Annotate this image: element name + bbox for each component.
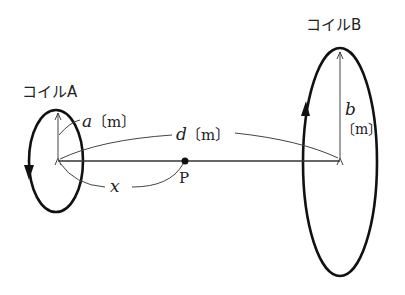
point-p-label: P [179,169,189,187]
coil-a-label: コイルA [22,83,78,101]
coil-diagram: コイルA コイルB a 〔m〕 d 〔m〕 b 〔m〕 x P [0,0,405,295]
distance-d-leader-left [60,135,172,159]
coil-a-radius-unit: 〔m〕 [92,113,136,131]
coil-a-current-arrow-icon [24,165,34,180]
distance-x-var: x [110,176,120,196]
distance-x-leader-right [132,164,183,187]
coil-b-radius-unit: 〔m〕 [341,121,382,137]
point-p-marker [182,158,189,165]
coil-b-label: コイルB [306,16,361,34]
coil-a-radius-var: a [82,111,92,131]
distance-d-unit: 〔m〕 [186,126,230,144]
distance-d-leader-right [235,133,338,158]
coil-b-radius-var: b [345,99,356,119]
